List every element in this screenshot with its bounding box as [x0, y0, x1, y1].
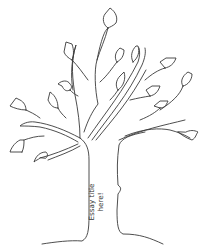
branch-left-main-upper: [20, 122, 80, 142]
trunk-left-edge: [42, 138, 89, 244]
stalk-left-4: [24, 136, 44, 140]
branch-lower-right: [119, 120, 185, 140]
stalk-right-4: [140, 108, 160, 120]
stalk-inner-1: [100, 62, 117, 82]
essay-title-line2: here!: [96, 183, 105, 220]
leaf-inner-1: [115, 48, 124, 62]
leaf-lower-right: [178, 131, 198, 141]
leaf-left-4: [10, 140, 24, 152]
leaf-left-3: [58, 81, 72, 91]
trunk-right-edge: [117, 132, 163, 244]
leaf-right-2: [182, 72, 192, 86]
leaf-right-1: [160, 58, 176, 68]
leaf-right-top: [132, 46, 139, 62]
stalk-left-1: [26, 110, 40, 118]
stalk-upper-left: [72, 60, 88, 80]
stalk-inner-2: [110, 90, 118, 100]
branch-right-line3: [96, 70, 146, 140]
leaf-left-1: [10, 98, 26, 110]
stalk-right-1: [145, 68, 165, 80]
leaf-left-5: [34, 152, 48, 162]
leaf-right-3: [146, 86, 160, 96]
stalk-right-2: [160, 86, 183, 110]
stalk-right-3: [130, 96, 150, 100]
leaf-right-4: [154, 101, 168, 108]
branch-left-lower-2: [48, 146, 80, 160]
stalk-left-2: [58, 108, 66, 118]
leaf-top: [103, 8, 116, 28]
essay-title-text: Essay title here!: [88, 183, 105, 220]
tree-illustration: Essay title here!: [0, 0, 205, 252]
leaf-left-2: [48, 92, 58, 108]
leaf-upper-left: [64, 42, 74, 60]
